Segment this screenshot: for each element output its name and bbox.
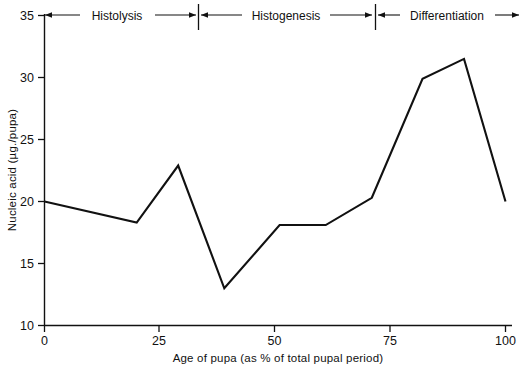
x-tick-label-0: 0: [41, 334, 48, 348]
y-tick-label-30: 30: [20, 71, 34, 85]
y-tick-label-35: 35: [20, 9, 34, 23]
phase-arrow-histogenesis-left-icon: [201, 12, 208, 18]
x-tick-label-75: 75: [383, 334, 397, 348]
x-axis-title: Age of pupa (as % of total pupal period): [173, 352, 384, 364]
phase-annotation-band: Histolysis Histogenesis Differentiation: [45, 4, 519, 30]
phase-label-histolysis: Histolysis: [92, 9, 143, 23]
nucleic-acid-line-chart: Histolysis Histogenesis Differentiation …: [0, 0, 524, 367]
phase-label-differentiation: Differentiation: [410, 9, 484, 23]
y-tick-label-15: 15: [20, 257, 34, 271]
y-tick-label-20: 20: [20, 195, 34, 209]
chart-axes: 10 15 20 25 30 35 0 25 50 75 100: [20, 9, 516, 348]
phase-label-histogenesis: Histogenesis: [252, 9, 321, 23]
phase-arrow-differentiation-left-icon: [378, 12, 385, 18]
x-tick-label-100: 100: [495, 334, 516, 348]
x-tick-label-25: 25: [152, 334, 166, 348]
phase-arrow-left-icon: [45, 12, 52, 18]
data-series-line: [45, 59, 506, 288]
y-tick-label-25: 25: [20, 133, 34, 147]
y-tick-label-10: 10: [20, 319, 34, 333]
y-axis-title: Nucleic acid (µg./pupa): [6, 109, 18, 231]
x-tick-label-50: 50: [268, 334, 282, 348]
phase-arrow-histolysis-right-icon: [189, 12, 196, 18]
phase-arrow-right-icon: [512, 12, 519, 18]
phase-arrow-histogenesis-right-icon: [365, 12, 372, 18]
